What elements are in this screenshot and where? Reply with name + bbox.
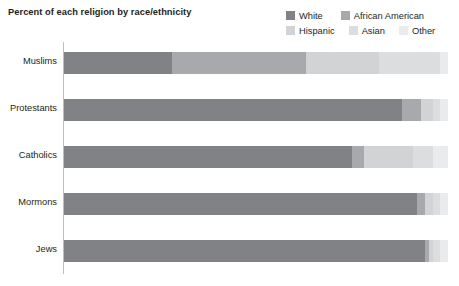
bar-segment-hispanic[interactable] [421, 99, 433, 121]
bar-segment-white[interactable] [64, 193, 417, 215]
bar-segment-hispanic[interactable] [364, 146, 414, 168]
bar-segment-other[interactable] [440, 99, 448, 121]
stacked-bar[interactable] [64, 240, 448, 262]
bar-segment-african-american[interactable] [352, 146, 364, 168]
legend-label-other: Other [412, 26, 435, 36]
legend-swatch-asian-icon [349, 26, 358, 35]
chart-title: Percent of each religion by race/ethnici… [8, 7, 191, 17]
legend-label-asian: Asian [362, 26, 385, 36]
legend-entry-other: Other [399, 26, 435, 36]
bar-segment-asian[interactable] [433, 193, 441, 215]
legend-row-2: Hispanic Asian Other [286, 23, 456, 38]
legend-entry-asian: Asian [349, 26, 385, 36]
stacked-bar[interactable] [64, 99, 448, 121]
bar-segment-african-american[interactable] [402, 99, 421, 121]
legend-entry-african-american: African American [341, 11, 424, 21]
bar-group: Mormons [0, 193, 459, 215]
category-label-catholics: Catholics [19, 150, 57, 160]
bar-segment-other[interactable] [440, 193, 448, 215]
legend-label-white: White [299, 11, 323, 21]
bar-segment-white[interactable] [64, 52, 172, 74]
legend-entry-hispanic: Hispanic [286, 26, 335, 36]
bar-segment-white[interactable] [64, 240, 425, 262]
chart-container: Percent of each religion by race/ethnici… [0, 0, 459, 286]
stacked-bar[interactable] [64, 193, 448, 215]
category-label-jews: Jews [36, 244, 57, 254]
category-label-protestants: Protestants [10, 103, 57, 113]
category-label-mormons: Mormons [18, 197, 57, 207]
stacked-bar[interactable] [64, 52, 448, 74]
bar-group: Muslims [0, 52, 459, 74]
bar-segment-asian[interactable] [379, 52, 440, 74]
bar-segment-asian[interactable] [433, 99, 441, 121]
bar-segment-african-american[interactable] [417, 193, 425, 215]
bar-segment-white[interactable] [64, 146, 352, 168]
stacked-bar[interactable] [64, 146, 448, 168]
bar-group: Catholics [0, 146, 459, 168]
bar-segment-other[interactable] [440, 52, 448, 74]
bar-segment-asian[interactable] [433, 240, 441, 262]
legend-row-1: White African American [286, 8, 456, 23]
bar-group: Protestants [0, 99, 459, 121]
bar-segment-hispanic[interactable] [306, 52, 379, 74]
legend-label-african-american: African American [354, 11, 424, 21]
bar-segment-white[interactable] [64, 99, 402, 121]
bar-segment-hispanic[interactable] [425, 193, 433, 215]
chart-legend: White African American Hispanic Asian Ot… [286, 8, 456, 38]
bar-segment-asian[interactable] [413, 146, 432, 168]
bar-segment-other[interactable] [433, 146, 448, 168]
legend-swatch-white-icon [286, 11, 295, 20]
category-label-muslims: Muslims [23, 56, 57, 66]
legend-label-hispanic: Hispanic [299, 26, 335, 36]
legend-swatch-hispanic-icon [286, 26, 295, 35]
bar-segment-other[interactable] [440, 240, 448, 262]
legend-entry-white: White [286, 11, 323, 21]
legend-swatch-african-american-icon [341, 11, 350, 20]
bar-group: Jews [0, 240, 459, 262]
bar-segment-african-american[interactable] [172, 52, 306, 74]
legend-swatch-other-icon [399, 26, 408, 35]
plot-area: MuslimsProtestantsCatholicsMormonsJews [0, 40, 459, 278]
